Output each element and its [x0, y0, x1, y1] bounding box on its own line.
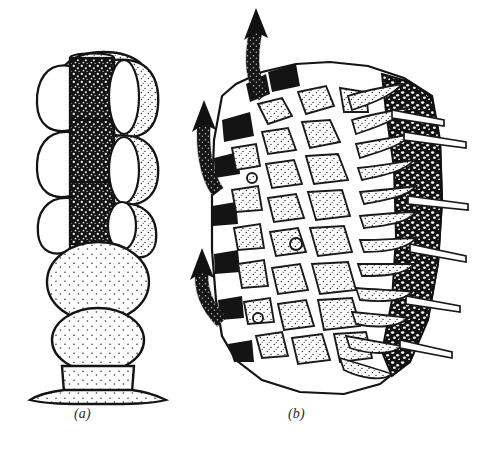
dark-granular-column [70, 54, 114, 245]
caption-panel-a: (a) [74, 406, 91, 422]
large-stippled-spheres [47, 242, 149, 372]
white-oval-cells-right [108, 60, 139, 250]
flared-basal-foot [30, 390, 166, 404]
caption-panel-b: (b) [288, 406, 305, 422]
figure-canvas [0, 0, 494, 452]
figure-illustration: (a) (b) [0, 0, 494, 452]
basal-cell [62, 366, 134, 392]
white-oval-cells-left [37, 65, 70, 253]
panel-b [190, 8, 468, 394]
panel-a [30, 52, 166, 404]
